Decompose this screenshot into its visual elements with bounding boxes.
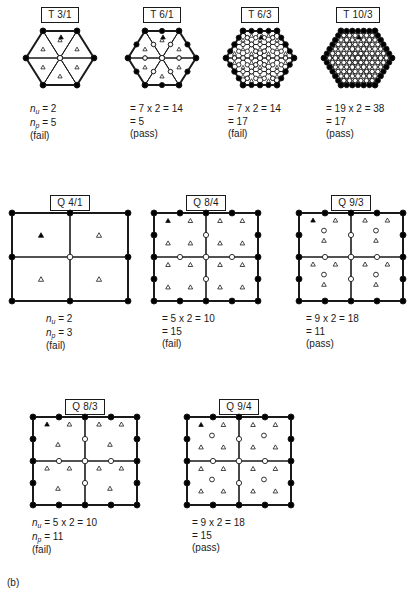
caption-line: nu = 2 [46,313,134,327]
caption-line: (pass) [192,542,302,555]
caption-line: = 19 x 2 = 38 [326,103,412,116]
caption-line: (fail) [46,340,134,353]
patch-t63: T 6/3= 7 x 2 = 14= 17(fail) [208,4,312,141]
patch-label: Q 8/4 [186,195,225,211]
patch-t61: T 6/1= 7 x 2 = 14= 5(pass) [110,4,214,141]
patch-caption: nu = 2np = 5(fail) [30,103,114,143]
caption-line: = 15 [162,326,264,339]
mesh-q84 [148,207,264,307]
caption-line: nu = 2 [30,103,114,117]
mesh-q93 [293,207,409,307]
caption-line: = 9 x 2 = 18 [192,517,302,530]
caption-line: = 5 [130,116,214,129]
patch-caption: nu = 5 x 2 = 10np = 11(fail) [32,517,150,557]
caption-line: = 7 x 2 = 14 [130,103,214,116]
patch-label: Q 9/4 [219,399,258,415]
patch-q94: Q 9/4= 9 x 2 = 18= 15(pass) [176,396,302,555]
caption-line: np = 3 [46,327,134,341]
patch-caption: = 7 x 2 = 14= 5(pass) [130,103,214,141]
patch-label: T 6/1 [143,7,181,23]
patch-caption: nu = 2np = 3(fail) [46,313,134,353]
patch-t103: T 10/3= 19 x 2 = 38= 17(pass) [304,4,412,141]
patch-label-row: T 6/1 [110,4,214,19]
caption-line: (pass) [306,338,412,351]
caption-line: (pass) [130,128,214,141]
mesh-q83 [27,411,143,511]
caption-line: (fail) [30,130,114,143]
caption-line: = 9 x 2 = 18 [306,313,412,326]
caption-line: = 5 x 2 = 10 [162,313,264,326]
patch-label-row: Q 9/4 [176,396,302,411]
patch-q93: Q 9/3= 9 x 2 = 18= 11(pass) [290,192,412,351]
patch-q83: Q 8/3nu = 5 x 2 = 10np = 11(fail) [20,396,150,557]
patch-label-row: T 10/3 [304,4,412,19]
mesh-t61 [110,19,214,97]
patch-q84: Q 8/4= 5 x 2 = 10= 15(fail) [148,192,264,351]
caption-line: = 17 [326,116,412,129]
patch-caption: = 9 x 2 = 18= 15(pass) [192,517,302,555]
patch-label-row: T 3/1 [6,4,114,19]
patch-caption: = 7 x 2 = 14= 17(fail) [228,103,312,141]
patch-label: Q 8/3 [65,399,104,415]
caption-line: (fail) [32,544,150,557]
patch-label: T 3/1 [41,7,79,23]
mesh-t31 [6,19,114,97]
patch-label: Q 4/1 [50,195,89,211]
mesh-q41 [6,207,134,307]
patch-label-row: Q 9/3 [290,192,412,207]
mesh-t63 [208,19,312,97]
caption-line: (fail) [228,128,312,141]
caption-line: = 17 [228,116,312,129]
patch-caption: = 19 x 2 = 38= 17(pass) [326,103,412,141]
patch-label: T 10/3 [336,7,379,23]
patch-label: Q 9/3 [331,195,370,211]
caption-line: (pass) [326,128,412,141]
caption-line: np = 5 [30,117,114,131]
caption-line: = 7 x 2 = 14 [228,103,312,116]
patch-caption: = 9 x 2 = 18= 11(pass) [306,313,412,351]
patch-label-row: Q 8/3 [20,396,150,411]
patch-label: T 6/3 [241,7,279,23]
patch-label-row: T 6/3 [208,4,312,19]
mesh-t103 [304,19,412,97]
mesh-q94 [181,411,297,511]
patch-caption: = 5 x 2 = 10= 15(fail) [162,313,264,351]
patch-q41: Q 4/1nu = 2np = 3(fail) [6,192,134,353]
patch-t31: T 3/1nu = 2np = 5(fail) [6,4,114,143]
caption-line: (fail) [162,338,264,351]
caption-line: nu = 5 x 2 = 10 [32,517,150,531]
caption-line: = 15 [192,530,302,543]
patch-label-row: Q 8/4 [148,192,264,207]
panel-tag: (b) [7,577,19,588]
caption-line: np = 11 [32,531,150,545]
caption-line: = 11 [306,326,412,339]
patch-label-row: Q 4/1 [6,192,134,207]
